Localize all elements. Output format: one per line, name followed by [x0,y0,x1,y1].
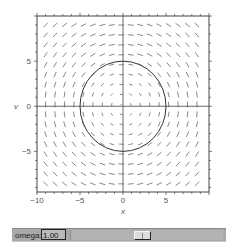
field-segment [186,72,189,77]
field-segment [90,173,95,176]
field-segment [91,63,95,66]
field-segment [137,24,143,25]
field-segment [196,72,198,78]
field-segment [128,44,134,45]
omega-slider-bar: omega: 1.00 [12,228,226,242]
field-segment [195,182,199,186]
field-segment [90,163,95,166]
field-segment [148,83,151,87]
field-segment [176,33,181,37]
field-segment [149,93,151,97]
field-segment [100,173,106,175]
field-segment [44,42,48,47]
field-segment [100,73,104,76]
field-segment [137,54,142,56]
field-segment [99,34,105,36]
field-segment [177,72,180,77]
omega-slider-track[interactable] [70,230,223,240]
field-segment [54,142,57,147]
field-segment [176,62,180,67]
x-tick-label: −10 [30,196,44,205]
field-segment [129,74,133,75]
field-segment [128,174,134,175]
field-segment [81,43,86,46]
field-segment [167,62,171,67]
field-segment [187,92,188,98]
field-segment [44,33,48,38]
field-segment [157,172,162,175]
field-segment [73,82,75,87]
field-segment [185,182,190,186]
field-segment [176,152,180,157]
field-segment [168,122,170,127]
field-segment [187,82,189,88]
field-segment [72,72,75,77]
field-segment [109,183,115,184]
y-tick-label: 0 [27,102,32,111]
field-segment [73,122,75,127]
field-segment [156,24,161,27]
field-segment [137,183,143,184]
field-segment [43,23,47,27]
field-segment [90,44,95,47]
field-segment [109,34,115,35]
field-segment [177,132,180,137]
field-segment [176,182,181,186]
field-segment [187,111,188,117]
field-segment [83,92,84,97]
field-segment [137,173,143,175]
field-segment [109,64,114,65]
vector-field-plot: −10−505−505 x v [0,0,229,222]
field-segment [90,34,95,36]
field-segment [157,73,160,77]
field-segment [110,143,115,144]
field-segment [62,182,67,186]
field-segment [45,131,47,137]
field-segment [129,94,132,96]
field-segment [186,162,190,167]
field-segment [90,24,96,26]
field-segment [62,172,66,176]
omega-value-field[interactable]: 1.00 [41,229,66,240]
omega-slider-thumb[interactable] [134,231,151,240]
field-segment [196,82,198,88]
field-segment [139,123,142,126]
x-tick-label: 5 [164,196,169,205]
field-segment [167,142,171,147]
field-segment [45,121,46,127]
field-segment [90,183,96,185]
field-segment [176,53,180,57]
field-segment [63,142,66,147]
field-segment [196,141,199,146]
field-segment [148,122,150,126]
field-segment [73,92,74,97]
field-segment [109,25,115,26]
field-segment [55,111,56,117]
field-segment [157,43,162,46]
field-segment [110,133,114,135]
field-segment [91,142,95,145]
field-segment [109,153,114,154]
field-segment [63,62,66,67]
field-segment [186,62,189,67]
field-segment [100,44,106,46]
field-segment [159,112,160,117]
field-segment [53,172,57,176]
field-segment [186,142,189,147]
field-segment [147,53,152,56]
y-tick-label: −5 [22,147,32,156]
field-segment [177,82,179,88]
field-segment [100,153,105,155]
field-segment [54,62,57,67]
field-segment [195,43,199,48]
field-segment [177,92,178,98]
field-segment [72,53,76,57]
field-segment [128,184,134,185]
field-segment [166,152,170,156]
field-segment [176,43,180,47]
vector-field-segments [43,23,199,186]
field-segment [138,153,143,155]
field-segment [54,131,56,137]
field-segment [44,162,47,167]
field-segment [178,111,179,117]
